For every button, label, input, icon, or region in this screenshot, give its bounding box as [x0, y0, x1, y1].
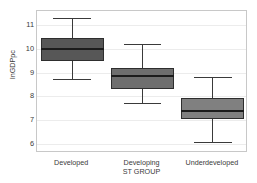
gridline	[37, 25, 246, 26]
plot-area	[36, 10, 247, 152]
y-tick-label: 10	[10, 44, 34, 53]
y-tick-label: 11	[10, 20, 34, 29]
whisker-cap-lower	[53, 79, 91, 80]
whisker-cap-upper	[124, 44, 162, 45]
whisker-cap-upper	[194, 77, 232, 78]
gridline	[37, 120, 246, 121]
box-underdeveloped	[181, 98, 244, 120]
whisker-cap-upper	[53, 18, 91, 19]
median-line	[181, 110, 244, 112]
whisker-upper	[72, 18, 73, 38]
whisker-lower	[212, 119, 213, 141]
whisker-lower	[72, 61, 73, 79]
median-line	[111, 75, 174, 77]
y-tick-label: 7	[10, 115, 34, 124]
y-tick-label: 8	[10, 91, 34, 100]
x-axis-title: ST GROUP	[92, 167, 192, 176]
whisker-lower	[142, 89, 143, 103]
median-line	[41, 48, 104, 50]
boxplot-figure: lnGDPpc 67891011 DevelopedDevelopingUnde…	[0, 0, 257, 183]
whisker-upper	[212, 77, 213, 98]
x-tick-label-underdeveloped: Underdeveloped	[162, 158, 257, 167]
whisker-cap-lower	[124, 103, 162, 104]
y-tick-label: 6	[10, 139, 34, 148]
box-developing	[111, 68, 174, 89]
whisker-cap-lower	[194, 142, 232, 143]
gridline	[37, 144, 246, 145]
y-tick-label: 9	[10, 68, 34, 77]
whisker-upper	[142, 44, 143, 68]
